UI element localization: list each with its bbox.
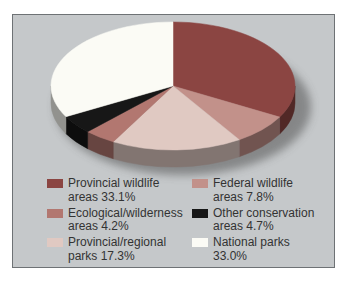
legend-label-line1: Provincial/regional [68,236,166,250]
legend-swatch-other-conservation [192,209,208,218]
chart-panel: Provincial wildlife areas 33.1% Ecologic… [12,14,335,268]
legend-item-national-parks: National parks 33.0% [192,236,340,263]
legend-item-provincial-regional: Provincial/regional parks 17.3% [47,236,195,263]
legend-label-line2: areas 7.8% [213,191,293,205]
legend-column-left: Provincial wildlife areas 33.1% Ecologic… [47,177,195,266]
legend-item-ecological-wilderness: Ecological/wilderness areas 4.2% [47,207,195,234]
legend-label-line2: areas 4.2% [68,220,183,234]
legend-item-other-conservation: Other conservation areas 4.7% [192,207,340,234]
legend-swatch-provincial-regional [47,238,63,247]
legend-label: Provincial/regional parks 17.3% [68,236,166,263]
legend-label-line1: Other conservation [213,207,314,221]
legend-item-provincial-wildlife: Provincial wildlife areas 33.1% [47,177,195,204]
legend-label-line2: 33.0% [213,250,290,264]
legend-label: Provincial wildlife areas 33.1% [68,177,159,204]
legend-label: Other conservation areas 4.7% [213,207,314,234]
legend-label-line2: parks 17.3% [68,250,166,264]
legend-label-line1: National parks [213,236,290,250]
legend-label: Federal wildlife areas 7.8% [213,177,293,204]
legend-swatch-provincial-wildlife [47,179,63,188]
legend-label-line1: Federal wildlife [213,177,293,191]
legend-column-right: Federal wildlife areas 7.8% Other conser… [192,177,340,266]
legend-label-line2: areas 4.7% [213,220,314,234]
legend-label: National parks 33.0% [213,236,290,263]
legend-swatch-national-parks [192,238,208,247]
legend-label-line1: Provincial wildlife [68,177,159,191]
legend-swatch-ecological-wilderness [47,209,63,218]
legend-label: Ecological/wilderness areas 4.2% [68,207,183,234]
legend-item-federal-wildlife: Federal wildlife areas 7.8% [192,177,340,204]
legend-label-line1: Ecological/wilderness [68,207,183,221]
legend-swatch-federal-wildlife [192,179,208,188]
legend-label-line2: areas 33.1% [68,191,159,205]
